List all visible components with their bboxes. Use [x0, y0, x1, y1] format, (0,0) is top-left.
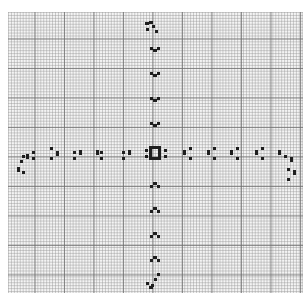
pixel-mark	[287, 178, 290, 181]
pixel-mark	[207, 150, 210, 155]
pixel-mark	[157, 122, 160, 125]
pixel-mark	[157, 235, 160, 238]
pixel-mark	[183, 150, 186, 155]
pixel-mark	[20, 160, 23, 163]
pixel-mark	[22, 171, 25, 174]
pixel-mark	[100, 157, 103, 160]
pixel-mark	[150, 259, 153, 262]
pixel-mark	[150, 185, 153, 188]
pixel-mark	[213, 147, 216, 150]
pixel-mark	[157, 185, 160, 188]
pixel-pattern-cross	[0, 0, 307, 299]
pixel-mark	[154, 278, 157, 281]
pixel-mark	[158, 146, 161, 160]
pixel-mark	[157, 210, 160, 213]
pixel-mark	[22, 155, 25, 158]
pixel-mark	[100, 151, 103, 154]
pixel-mark	[145, 149, 148, 152]
pixel-mark	[230, 150, 233, 155]
pixel-mark	[145, 155, 148, 158]
pixel-mark	[96, 150, 99, 155]
pixel-mark	[189, 157, 192, 160]
pixel-mark	[146, 282, 149, 285]
pixel-mark	[73, 151, 76, 154]
pixel-mark	[278, 150, 281, 155]
pixel-mark	[236, 147, 239, 150]
pixel-mark	[17, 167, 20, 172]
pixel-mark	[149, 21, 153, 24]
pixel-mark	[164, 155, 167, 158]
pixel-mark	[255, 150, 258, 155]
pixel-mark	[26, 154, 29, 159]
pixel-mark	[152, 25, 155, 28]
pixel-mark	[79, 150, 82, 155]
pixel-mark	[155, 30, 158, 33]
pixel-mark	[150, 235, 153, 238]
pixel-mark	[146, 28, 149, 31]
pixel-mark	[157, 97, 160, 100]
pixel-mark	[157, 47, 160, 50]
pixel-mark	[261, 157, 264, 160]
pixel-mark	[236, 157, 239, 160]
pixel-mark	[157, 273, 160, 276]
pixel-mark	[284, 155, 287, 158]
pixel-mark	[152, 146, 158, 149]
pixel-mark	[56, 151, 59, 156]
pixel-mark	[152, 157, 158, 160]
pixel-mark	[287, 168, 290, 171]
pixel-mark	[122, 151, 125, 154]
pixel-mark	[32, 151, 35, 154]
pixel-mark	[50, 147, 53, 150]
pixel-mark	[189, 147, 192, 150]
pixel-mark	[149, 286, 153, 289]
pixel-mark	[50, 157, 53, 160]
pixel-mark	[213, 157, 216, 160]
pixel-mark	[32, 157, 35, 160]
pixel-mark	[261, 147, 264, 150]
pixel-mark	[122, 157, 125, 160]
pixel-mark	[290, 157, 293, 162]
pixel-mark	[157, 259, 160, 262]
pixel-mark	[293, 170, 296, 175]
pixel-mark	[164, 149, 167, 152]
pixel-mark	[73, 157, 76, 160]
pixel-mark	[150, 210, 153, 213]
pixel-mark	[128, 150, 131, 155]
pixel-mark	[157, 72, 160, 75]
